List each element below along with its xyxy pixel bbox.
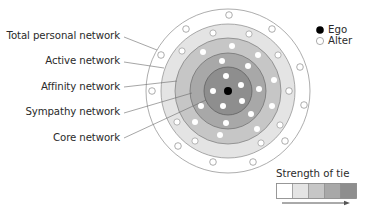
alter-node bbox=[220, 103, 226, 109]
label-total-personal-network: Total personal network bbox=[7, 30, 120, 42]
alter-node bbox=[254, 126, 260, 132]
alter-node bbox=[277, 122, 283, 128]
alter-node bbox=[275, 52, 281, 58]
alter-node bbox=[183, 26, 190, 33]
strength-of-tie-scale bbox=[277, 184, 357, 199]
strength-swatch bbox=[293, 184, 309, 199]
alter-node bbox=[210, 88, 216, 94]
strength-arrow-icon bbox=[282, 201, 350, 205]
alter-node bbox=[297, 64, 304, 71]
alter-node bbox=[223, 120, 229, 126]
alter-node bbox=[210, 30, 216, 36]
alter-node bbox=[282, 138, 289, 145]
legend-alter-icon bbox=[316, 37, 323, 44]
alter-node bbox=[248, 111, 254, 117]
alter-node bbox=[246, 31, 252, 37]
alter-node bbox=[149, 88, 156, 95]
strength-swatch bbox=[341, 184, 357, 199]
alter-node bbox=[301, 102, 308, 109]
label-core-network: Core network bbox=[53, 132, 120, 144]
alter-node bbox=[158, 52, 165, 59]
legend-ego-icon bbox=[316, 26, 324, 34]
alter-node bbox=[175, 143, 182, 150]
alter-node bbox=[200, 49, 206, 55]
alter-node bbox=[286, 88, 293, 95]
label-affinity-network: Affinity network bbox=[41, 81, 120, 93]
strength-swatch bbox=[277, 184, 293, 199]
alter-node bbox=[256, 86, 262, 92]
alter-node bbox=[245, 63, 251, 69]
alter-node bbox=[238, 82, 244, 88]
label-active-network: Active network bbox=[45, 55, 120, 67]
strength-of-tie-title: Strength of tie bbox=[276, 168, 349, 180]
strength-swatch bbox=[325, 184, 341, 199]
alter-node bbox=[217, 132, 223, 138]
alter-node bbox=[210, 159, 217, 166]
alter-node bbox=[258, 140, 264, 146]
alter-node bbox=[226, 12, 233, 19]
alter-node bbox=[239, 98, 245, 104]
alter-node bbox=[229, 43, 235, 49]
alter-node bbox=[255, 52, 261, 58]
alter-node bbox=[198, 103, 204, 109]
legend-alter-label: Alter bbox=[328, 35, 352, 47]
strength-swatch bbox=[309, 184, 325, 199]
alter-node bbox=[269, 103, 275, 109]
alter-node bbox=[219, 58, 225, 64]
alter-node bbox=[174, 119, 180, 125]
alter-node bbox=[271, 77, 277, 83]
ego-node bbox=[224, 87, 232, 95]
alter-node bbox=[192, 138, 198, 144]
label-sympathy-network: Sympathy network bbox=[25, 106, 120, 118]
leader-line-total bbox=[124, 37, 157, 50]
alter-node bbox=[223, 73, 229, 79]
alter-node bbox=[269, 26, 276, 33]
alter-node bbox=[179, 48, 185, 54]
alter-node bbox=[250, 159, 257, 166]
alter-node bbox=[192, 119, 198, 125]
